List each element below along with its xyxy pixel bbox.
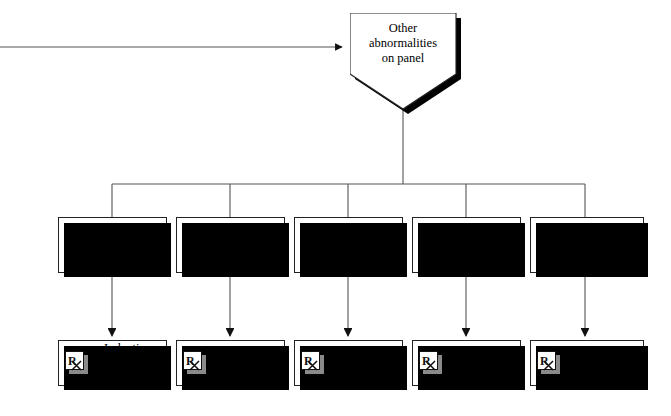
rx-icon: R <box>419 351 443 375</box>
edge-finding-to-diagnosis <box>112 273 585 336</box>
node-diagnosis-liver[interactable]: R Liver disease <box>176 340 285 386</box>
node-label: Hyper- thyroidism <box>444 348 520 378</box>
node-diagnosis-adrenal[interactable]: R Hyperadreno- corticism <box>294 340 403 386</box>
node-label: Diabetes mellitus <box>562 348 643 378</box>
rx-icon: R <box>65 351 89 375</box>
node-label: ↑ Blood glucose <box>542 238 633 253</box>
node-finding-liver[interactable]: ↑ AST, ↑ alk phos, ↑ bile acids <box>176 217 285 273</box>
node-diagnosis-diabetes[interactable]: R Diabetes mellitus <box>530 340 644 386</box>
flowchart-canvas: Other abnormalities on panel ↑ Cholester… <box>0 0 671 416</box>
node-diagnosis-renal[interactable]: R Induction stage acute renal failure <box>58 340 167 386</box>
node-finding-thyroid[interactable]: ↑ T₄ <box>412 217 521 273</box>
node-label: ↑ Cholesterol, ↑ Urine GGT/Cr, ↑ Fe Na <box>65 223 160 267</box>
node-label: Induction stage acute renal failure <box>90 341 166 385</box>
node-label: Liver disease <box>208 348 284 378</box>
node-diagnosis-thyroid[interactable]: R Hyper- thyroidism <box>412 340 521 386</box>
node-other-abnormalities[interactable]: Other abnormalities on panel <box>350 13 456 109</box>
rx-icon: R <box>301 351 325 375</box>
node-finding-diabetes[interactable]: ↑ Blood glucose <box>530 217 644 273</box>
node-finding-adrenal[interactable]: Stress pattern, ↓ lymphs, ↓ EOS <box>294 217 403 273</box>
edge-bus-drops <box>112 184 585 217</box>
node-label: ↑ T₄ <box>452 238 482 253</box>
node-label: Stress pattern, ↓ lymphs, ↓ EOS <box>308 223 388 267</box>
node-finding-renal[interactable]: ↑ Cholesterol, ↑ Urine GGT/Cr, ↑ Fe Na <box>58 217 167 273</box>
node-label: Other abnormalities on panel <box>350 21 456 66</box>
rx-icon: R <box>183 351 207 375</box>
rx-icon: R <box>537 351 561 375</box>
node-label: ↑ AST, ↑ alk phos, ↑ bile acids <box>197 223 263 267</box>
node-label: Hyperadreno- corticism <box>326 348 403 378</box>
